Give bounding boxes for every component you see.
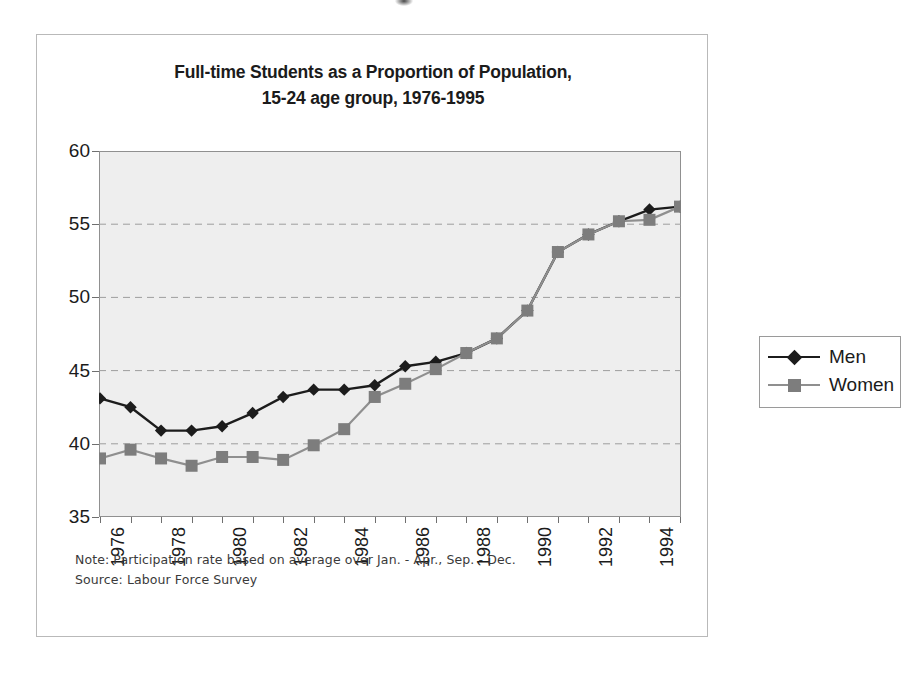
figure-notes: Note: Participation rate based on averag… [75, 550, 675, 590]
x-axis-tick-mark-1976 [100, 517, 101, 523]
legend-swatch-women [768, 384, 820, 386]
data-point-men-1981 [246, 407, 258, 419]
data-point-women-1993 [613, 215, 625, 227]
data-point-women-1986 [399, 378, 411, 390]
y-axis-tick-label-50: 50 [69, 286, 90, 308]
note-source: Source: Labour Force Survey [75, 570, 675, 590]
x-axis-tick-mark-1995 [680, 517, 681, 523]
y-axis-tick-label-55: 55 [69, 213, 90, 235]
x-axis-tick-mark-1978 [161, 517, 162, 523]
data-point-men-1984 [338, 383, 350, 395]
x-axis-tick-mark-1983 [314, 517, 315, 523]
y-axis-tick-label-45: 45 [69, 360, 90, 382]
data-point-men-1979 [185, 424, 197, 436]
square-marker-icon [788, 379, 801, 392]
data-point-women-1980 [216, 451, 228, 463]
data-point-women-1976 [99, 452, 106, 464]
y-axis-tick-label-40: 40 [69, 433, 90, 455]
data-point-women-1985 [369, 391, 381, 403]
plot-svg [99, 151, 681, 517]
data-point-women-1982 [277, 454, 289, 466]
x-axis-tick-mark-1986 [405, 517, 406, 523]
x-axis-tick-mark-1981 [253, 517, 254, 523]
note-participation-rate: Note: Participation rate based on averag… [75, 550, 675, 570]
data-point-women-1991 [552, 246, 564, 258]
y-axis-tick-mark-55 [92, 224, 99, 225]
data-point-men-1982 [277, 391, 289, 403]
data-point-women-1979 [186, 460, 198, 472]
data-point-women-1994 [643, 214, 655, 226]
data-point-women-1989 [491, 332, 503, 344]
data-point-men-1985 [369, 379, 381, 391]
x-axis-tick-mark-1984 [344, 517, 345, 523]
y-axis-tick-mark-60 [92, 151, 99, 152]
data-point-women-1978 [155, 452, 167, 464]
x-axis-tick-mark-1977 [131, 517, 132, 523]
x-axis-tick-mark-1991 [558, 517, 559, 523]
chart-title: Full-time Students as a Proportion of Po… [37, 59, 709, 111]
y-axis-tick-label-60: 60 [69, 140, 90, 162]
y-axis-tick-mark-40 [92, 444, 99, 445]
data-point-women-1977 [125, 444, 137, 456]
legend-label-women: Women [829, 374, 894, 396]
x-axis-tick-mark-1994 [649, 517, 650, 523]
data-point-women-1988 [460, 347, 472, 359]
y-axis-tick-mark-45 [92, 371, 99, 372]
x-axis-tick-mark-1987 [436, 517, 437, 523]
legend-item-women: Women [768, 373, 894, 397]
x-axis-tick-mark-1989 [497, 517, 498, 523]
chart-title-line-1: Full-time Students as a Proportion of Po… [37, 59, 709, 85]
x-axis-tick-mark-1979 [192, 517, 193, 523]
plot-wrapper: 354045505560 197619781980198219841986198… [99, 151, 681, 517]
x-axis-tick-mark-1988 [466, 517, 467, 523]
data-point-women-1990 [521, 305, 533, 317]
data-point-women-1984 [338, 423, 350, 435]
x-axis-tick-mark-1980 [222, 517, 223, 523]
data-point-women-1992 [582, 228, 594, 240]
x-axis-tick-mark-1982 [283, 517, 284, 523]
legend-swatch-men [768, 356, 820, 358]
x-axis-tick-mark-1990 [527, 517, 528, 523]
data-point-women-1987 [430, 363, 442, 375]
data-point-women-1983 [308, 439, 320, 451]
x-axis-tick-mark-1985 [375, 517, 376, 523]
chart-title-line-2: 15-24 age group, 1976-1995 [37, 85, 709, 111]
data-point-men-1980 [216, 420, 228, 432]
data-point-women-1981 [247, 451, 259, 463]
y-axis-tick-label-35: 35 [69, 506, 90, 528]
data-point-men-1983 [307, 383, 319, 395]
y-axis-tick-mark-50 [92, 297, 99, 298]
data-point-men-1976 [99, 392, 106, 404]
diamond-marker-icon [786, 349, 802, 365]
data-point-women-1995 [674, 201, 681, 213]
chart-legend: Men Women [759, 336, 901, 408]
legend-label-men: Men [829, 346, 866, 368]
figure-frame: Full-time Students as a Proportion of Po… [36, 34, 708, 637]
x-axis-tick-mark-1993 [619, 517, 620, 523]
x-axis-tick-mark-1992 [588, 517, 589, 523]
series-line-women [100, 207, 680, 466]
y-axis-tick-mark-35 [92, 517, 99, 518]
legend-item-men: Men [768, 345, 866, 369]
scan-artifact [395, 0, 413, 6]
